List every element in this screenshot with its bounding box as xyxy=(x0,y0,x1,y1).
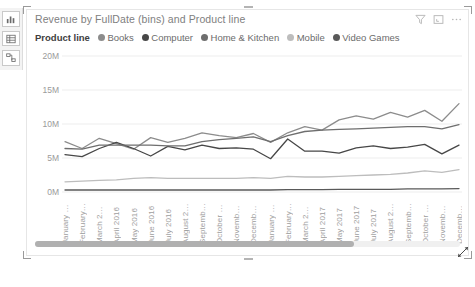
x-axis-tick-label: August 2017 xyxy=(386,202,395,244)
legend-item-video-games[interactable]: Video Games xyxy=(333,32,400,43)
resize-handle-top[interactable] xyxy=(244,6,253,8)
plot-area: 0M5M10M15M20M January 2016February 20...… xyxy=(35,48,462,244)
table-icon xyxy=(6,34,16,44)
horizontal-scrollbar[interactable] xyxy=(35,241,460,247)
bar-chart-icon xyxy=(6,14,16,24)
legend-marker-icon xyxy=(201,34,208,41)
x-axis-tick-label: February 20... xyxy=(78,202,87,244)
legend-marker-icon xyxy=(142,34,149,41)
x-axis-tick-label: October 20... xyxy=(215,202,224,244)
x-axis-tick-label: March 2017 xyxy=(301,202,310,244)
series-line-computer[interactable] xyxy=(65,139,459,159)
x-axis-tick-label: September ... xyxy=(198,202,207,244)
chart-legend: Product line BooksComputerHome & Kitchen… xyxy=(35,32,408,43)
power-bi-report-canvas: Revenue by FullDate (bins) and Product l… xyxy=(0,0,475,287)
series-line-video-games[interactable] xyxy=(65,189,459,190)
filter-icon[interactable] xyxy=(415,14,426,25)
x-axis: January 2016February 20...March 2016Apri… xyxy=(62,200,462,244)
legend-item-computer[interactable]: Computer xyxy=(142,32,193,43)
legend-title: Product line xyxy=(35,32,90,43)
scrollbar-thumb[interactable] xyxy=(35,241,354,247)
sidebar-item-model-view[interactable] xyxy=(2,50,20,66)
legend-marker-icon xyxy=(333,34,340,41)
resize-handle-bottom-left[interactable] xyxy=(23,251,31,259)
x-axis-tick-label: April 2017 xyxy=(318,202,327,244)
y-axis-tick-label: 0M xyxy=(47,187,59,197)
x-axis-tick-label: March 2016 xyxy=(95,202,104,244)
focus-mode-icon[interactable] xyxy=(433,14,444,25)
legend-item-home-kitchen[interactable]: Home & Kitchen xyxy=(201,32,279,43)
x-axis-tick-label: September ... xyxy=(404,202,413,244)
x-axis-tick-label: May 2017 xyxy=(335,202,344,244)
legend-marker-icon xyxy=(287,34,294,41)
x-axis-tick-label: May 2016 xyxy=(130,202,139,244)
resize-handle-bottom[interactable] xyxy=(244,258,253,260)
x-axis-tick-label: November ... xyxy=(232,202,241,244)
visual-header-actions xyxy=(415,14,462,25)
legend-item-books[interactable]: Books xyxy=(98,32,134,43)
legend-item-label: Mobile xyxy=(297,32,325,43)
view-switcher-rail xyxy=(0,8,23,70)
resize-cursor-icon xyxy=(456,245,470,259)
legend-item-mobile[interactable]: Mobile xyxy=(287,32,325,43)
sidebar-item-report-view[interactable] xyxy=(2,11,20,27)
line-chart-visual[interactable]: Revenue by FullDate (bins) and Product l… xyxy=(26,9,469,256)
y-axis-tick-label: 10M xyxy=(42,119,59,129)
legend-marker-icon xyxy=(98,34,105,41)
relationships-icon xyxy=(6,53,16,63)
x-axis-tick-label: October 20... xyxy=(421,202,430,244)
legend-item-label: Books xyxy=(107,32,133,43)
y-axis-tick-label: 20M xyxy=(42,51,59,61)
sidebar-item-data-view[interactable] xyxy=(2,31,20,47)
x-axis-tick-label: July 2017 xyxy=(369,202,378,244)
more-options-icon[interactable] xyxy=(451,14,462,25)
x-axis-tick-label: August 2016 xyxy=(181,202,190,244)
x-axis-tick-label: July 2016 xyxy=(164,202,173,244)
series-line-home-kitchen[interactable] xyxy=(65,125,459,150)
x-axis-tick-label: February 20... xyxy=(284,202,293,244)
x-axis-tick-label: January 2017 xyxy=(267,202,276,244)
x-axis-tick-label: December ... xyxy=(455,202,462,244)
y-axis-tick-label: 15M xyxy=(42,85,59,95)
x-axis-tick-label: November ... xyxy=(438,202,447,244)
x-axis-tick-label: June 2016 xyxy=(147,202,156,244)
legend-item-label: Video Games xyxy=(342,32,399,43)
y-axis-tick-label: 5M xyxy=(47,153,59,163)
x-axis-tick-label: January 2016 xyxy=(62,202,70,244)
legend-item-label: Computer xyxy=(151,32,193,43)
x-axis-tick-label: December ... xyxy=(249,202,258,244)
visual-title: Revenue by FullDate (bins) and Product l… xyxy=(35,13,245,25)
line-chart-svg xyxy=(62,48,462,200)
y-axis: 0M5M10M15M20M xyxy=(35,48,61,200)
chart-canvas[interactable] xyxy=(62,48,462,200)
legend-item-label: Home & Kitchen xyxy=(211,32,280,43)
visual-header: Revenue by FullDate (bins) and Product l… xyxy=(27,10,468,30)
series-line-mobile[interactable] xyxy=(65,170,459,182)
legend-items: BooksComputerHome & KitchenMobileVideo G… xyxy=(98,32,408,43)
x-axis-tick-label: June 2017 xyxy=(352,202,361,244)
x-axis-tick-label: April 2016 xyxy=(112,202,121,244)
